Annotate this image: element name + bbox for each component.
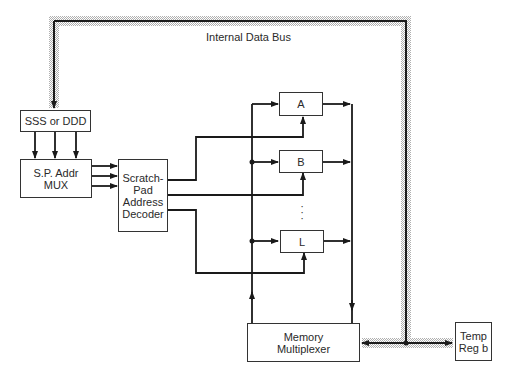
temp-reg-b-block: Temp Reg b — [455, 322, 492, 361]
memory-multiplexer-block: Memory Multiplexer — [247, 323, 360, 362]
register-b-block: B — [279, 150, 323, 173]
register-ellipsis: · · · — [297, 203, 307, 221]
register-l-label: L — [299, 236, 305, 248]
sp-addr-mux-label: S.P. Addr MUX — [33, 167, 78, 191]
sp-addr-mux-block: S.P. Addr MUX — [20, 159, 92, 198]
temp-reg-b-label: Temp Reg b — [459, 330, 488, 354]
scratch-pad-decoder-label: Scratch- Pad Address Decoder — [122, 172, 164, 220]
mux-to-decoder-arrows — [91, 166, 117, 186]
register-output-bus — [322, 104, 352, 323]
sss-ddd-label: SSS or DDD — [25, 115, 87, 127]
register-b-label: B — [297, 156, 304, 168]
internal-data-bus — [54, 21, 453, 346]
memory-multiplexer-label: Memory Multiplexer — [277, 331, 330, 355]
register-a-block: A — [279, 92, 323, 116]
internal-data-bus-label: Internal Data Bus — [206, 31, 291, 43]
sss-ddd-block: SSS or DDD — [20, 110, 91, 132]
register-a-label: A — [297, 98, 304, 110]
register-l-block: L — [280, 230, 324, 253]
scratch-pad-decoder-block: Scratch- Pad Address Decoder — [118, 159, 168, 232]
sss-to-mux-arrows — [35, 131, 76, 158]
